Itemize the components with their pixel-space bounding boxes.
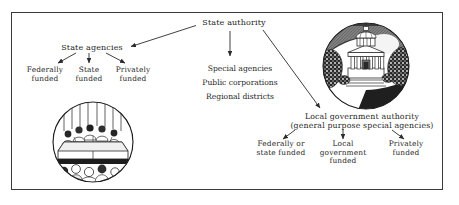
diagram-figure: State authority State agencies Federally…: [0, 0, 459, 205]
center-list: Special agencies Public corporations Reg…: [180, 62, 300, 104]
leaf-state-agency-state-funded: State funded: [68, 66, 110, 83]
leaf-local-privately-funded: Privately funded: [383, 140, 429, 157]
node-state-authority: State authority: [196, 19, 272, 28]
leaf-local-federally-or-state-funded: Federally or state funded: [253, 140, 309, 157]
council-meeting-vignette: [52, 101, 134, 183]
leaf-local-government-funded: Local government funded: [316, 140, 370, 166]
leaf-state-agency-privately-funded: Privately funded: [110, 66, 156, 83]
node-state-agencies: State agencies: [56, 44, 128, 53]
center-list-item-public-corporations: Public corporations: [180, 76, 300, 90]
center-list-item-regional-districts: Regional districts: [180, 90, 300, 104]
leaf-state-agency-federally-funded: Federally funded: [22, 66, 68, 83]
node-local-government-authority: Local government authority (general purp…: [276, 112, 448, 131]
center-list-item-special-agencies: Special agencies: [180, 62, 300, 76]
capitol-building-vignette: [322, 22, 410, 110]
